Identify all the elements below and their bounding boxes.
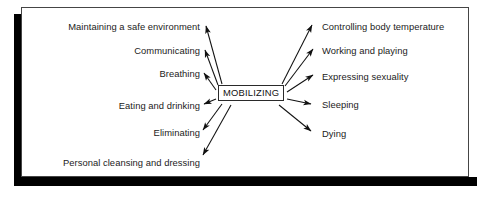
node-label-breathing: Breathing [159,69,200,78]
node-label-eating-and-drinking: Eating and drinking [119,101,200,110]
node-label-eliminating: Eliminating [154,128,200,137]
arrow-to-working-and-playing [285,49,313,86]
node-label-sleeping: Sleeping [322,100,359,109]
node-label-dying: Dying [322,129,346,138]
node-label-controlling-body-temperature: Controlling body temperature [322,22,444,31]
node-label-maintaining-a-safe-environment: Maintaining a safe environment [68,22,200,31]
node-label-expressing-sexuality: Expressing sexuality [322,72,408,81]
arrow-to-dying [279,105,311,131]
arrow-to-personal-cleansing-and-dressing [203,105,231,155]
node-label-personal-cleansing-and-dressing: Personal cleansing and dressing [63,158,200,167]
node-label-working-and-playing: Working and playing [322,46,408,55]
arrow-to-controlling-body-temperature [282,25,312,84]
arrow-to-eating-and-drinking [204,99,216,104]
node-label-communicating: Communicating [134,46,200,55]
arrow-to-communicating [205,50,218,85]
center-concept-box: MOBILIZING [218,85,284,101]
diagram-canvas: Maintaining a safe environment Communica… [0,0,492,197]
arrow-to-sleeping [287,99,311,104]
